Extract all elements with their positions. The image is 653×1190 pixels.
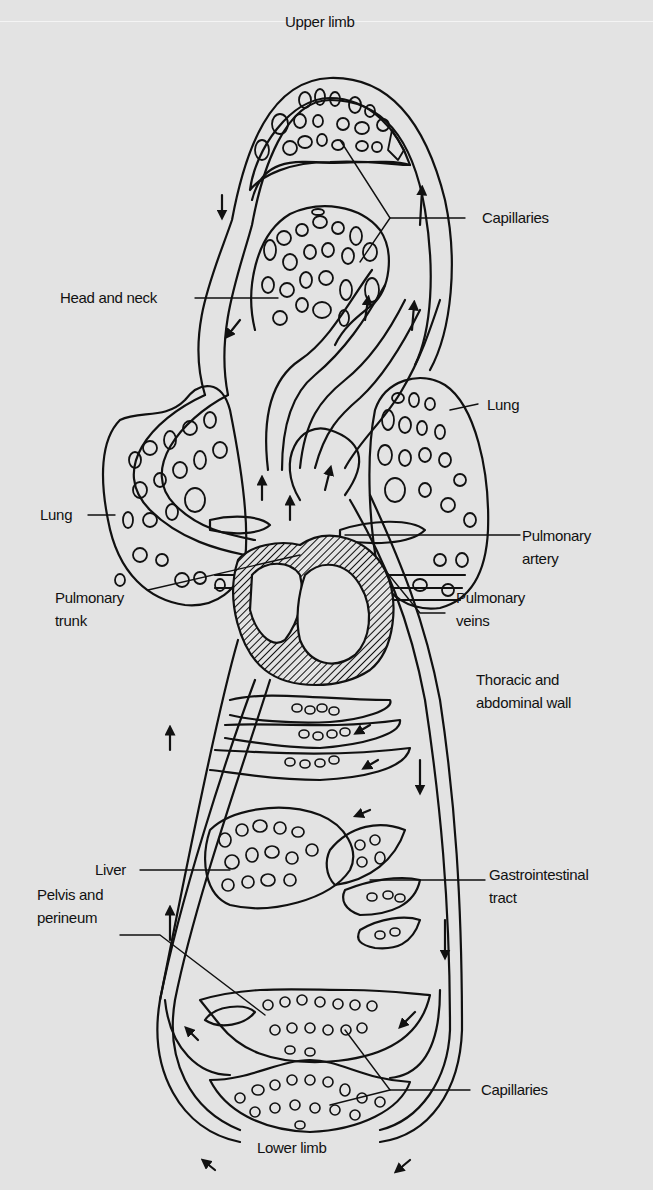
label-pulmonary-trunk-line1: Pulmonary — [55, 586, 124, 609]
label-pulmonary-veins-line1: Pulmonary — [456, 586, 525, 609]
label-pulmonary-trunk: Pulmonary trunk — [55, 586, 124, 632]
label-pulmonary-veins: Pulmonary veins — [456, 586, 525, 632]
vena-cava-left — [134, 395, 255, 555]
label-capillaries-top: Capillaries — [482, 208, 549, 228]
upper-limb-capillary-cells — [255, 89, 404, 160]
label-head-and-neck: Head and neck — [60, 288, 157, 308]
heart — [233, 536, 393, 685]
label-thoracic-abdominal-wall: Thoracic and abdominal wall — [476, 668, 571, 714]
label-pulmonary-artery-line1: Pulmonary — [522, 524, 591, 547]
label-thoracic-line1: Thoracic and — [476, 668, 571, 691]
label-lung-right: Lung — [487, 395, 519, 415]
label-thoracic-line2: abdominal wall — [476, 691, 571, 714]
label-upper-limb: Upper limb — [285, 12, 355, 32]
label-liver: Liver — [95, 860, 126, 880]
label-gi-line2: tract — [489, 886, 588, 909]
label-pulmonary-trunk-line2: trunk — [55, 609, 124, 632]
liver-bed — [205, 808, 353, 908]
circulation-diagram: Upper limb Capillaries Head and neck Lun… — [0, 0, 653, 1190]
pelvis-bed — [200, 989, 430, 1062]
label-gi-line1: Gastrointestinal — [489, 863, 588, 886]
label-pulmonary-veins-line2: veins — [456, 609, 525, 632]
label-lung-left: Lung — [40, 505, 72, 525]
label-pelvis-and-perineum: Pelvis and perineum — [37, 883, 103, 929]
upper-limb-loop — [198, 78, 451, 395]
label-pulmonary-artery-line2: artery — [522, 547, 591, 570]
label-lower-limb: Lower limb — [257, 1138, 327, 1158]
lower-limb-bed — [165, 990, 440, 1132]
label-capillaries-bottom: Capillaries — [481, 1080, 548, 1100]
gi-tract-beds — [327, 825, 420, 948]
thoracic-wall-beds — [210, 696, 410, 780]
label-pelvis-line2: perineum — [37, 906, 103, 929]
label-pulmonary-artery: Pulmonary artery — [522, 524, 591, 570]
label-pelvis-line1: Pelvis and — [37, 883, 103, 906]
label-gastrointestinal-tract: Gastrointestinal tract — [489, 863, 588, 909]
